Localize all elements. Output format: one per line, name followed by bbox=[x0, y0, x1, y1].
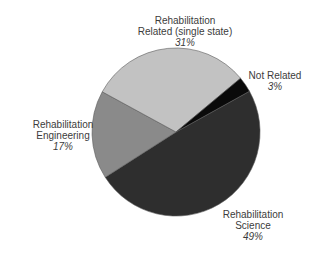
label-notrelated-percent: 3% bbox=[244, 81, 306, 92]
label-engineering-percent: 17% bbox=[30, 141, 96, 152]
label-related-line2: Related (single state) bbox=[133, 26, 237, 37]
label-science-line2: Science bbox=[216, 220, 290, 231]
pie-slices bbox=[92, 48, 260, 216]
label-science-percent: 49% bbox=[216, 231, 290, 242]
label-engineering-line1: Rehabilitation bbox=[30, 119, 96, 130]
label-notrelated-line1: Not Related bbox=[244, 70, 306, 81]
label-science-line1: Rehabilitation bbox=[216, 209, 290, 220]
label-related-percent: 31% bbox=[133, 37, 237, 48]
label-rehabilitation-science: Rehabilitation Science 49% bbox=[216, 209, 290, 242]
label-related-line1: Rehabilitation bbox=[133, 15, 237, 26]
label-engineering-line2: Engineering bbox=[30, 130, 96, 141]
label-rehabilitation-related: Rehabilitation Related (single state) 31… bbox=[133, 15, 237, 48]
label-rehabilitation-engineering: Rehabilitation Engineering 17% bbox=[30, 119, 96, 152]
label-not-related: Not Related 3% bbox=[244, 70, 306, 92]
